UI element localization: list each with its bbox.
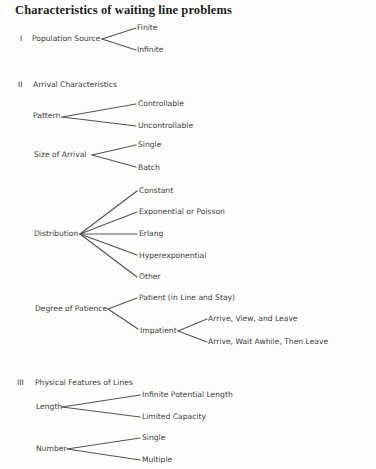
- node-number: Number: [36, 444, 67, 454]
- leaf-infinite: Infinite: [137, 45, 163, 55]
- section-numeral-iii: III: [17, 378, 24, 388]
- node-size-of-arrival: Size of Arrival: [34, 150, 86, 160]
- section-numeral-i: I: [20, 34, 22, 44]
- section-heading-physical: Physical Features of Lines: [35, 378, 133, 388]
- leaf-erlang: Erlang: [139, 229, 163, 239]
- leaf-arrive-wait-leave: Arrive, Wait Awhile, Then Leave: [208, 337, 328, 347]
- leaf-multiple-lines: Multiple: [142, 455, 172, 465]
- leaf-uncontrollable: Uncontrollable: [138, 121, 193, 131]
- leaf-batch: Batch: [138, 163, 160, 173]
- leaf-arrive-view-leave: Arrive, View, and Leave: [208, 314, 298, 324]
- node-length: Length: [36, 402, 62, 412]
- leaf-infinite-potential-length: Infinite Potential Length: [142, 390, 233, 400]
- leaf-single: Single: [138, 140, 161, 150]
- node-population-source: Population Source: [32, 34, 100, 44]
- leaf-constant: Constant: [139, 186, 173, 196]
- node-impatient: Impatient: [140, 326, 177, 336]
- leaf-limited-capacity: Limited Capacity: [142, 412, 206, 422]
- leaf-hyperexponential: Hyperexponential: [139, 251, 206, 261]
- leaf-other: Other: [139, 272, 161, 282]
- section-heading-arrival: Arrival Characteristics: [33, 80, 117, 90]
- leaf-single-line: Single: [142, 433, 165, 443]
- leaf-exponential-poisson: Exponential or Poisson: [139, 207, 225, 217]
- section-numeral-ii: II: [18, 80, 22, 90]
- node-degree-of-patience: Degree of Patience: [35, 304, 107, 314]
- leaf-finite: Finite: [137, 23, 158, 33]
- node-pattern: Pattern: [33, 111, 60, 121]
- leaf-controllable: Controllable: [138, 99, 184, 109]
- leaf-patient: Patient (in Line and Stay): [139, 293, 235, 303]
- node-distribution: Distribution: [34, 229, 78, 239]
